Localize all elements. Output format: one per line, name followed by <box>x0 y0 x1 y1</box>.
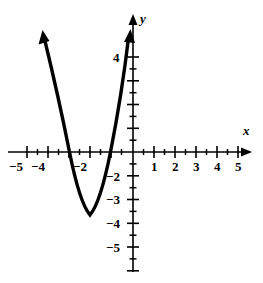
x-tick-label-4: 4 <box>214 160 221 173</box>
y-tick-label--2: −2 <box>106 170 120 183</box>
x-tick-label-5: 5 <box>235 160 242 173</box>
y-axis-label: y <box>140 12 146 25</box>
x-axis <box>8 148 252 157</box>
y-tick-label--5: −5 <box>106 241 120 254</box>
cartesian-plot <box>0 0 263 283</box>
x-tick-label-3: 3 <box>193 160 200 173</box>
x-tick-label-2: 2 <box>172 160 179 173</box>
curve-arrow-left <box>39 30 50 45</box>
x-axis-label: x <box>243 124 250 137</box>
parabola-curve <box>39 29 136 215</box>
y-axis <box>129 14 138 272</box>
y-tick-label--3: −3 <box>106 193 120 206</box>
x-tick-label--4: −4 <box>31 160 45 173</box>
x-tick-label--2: −2 <box>73 160 87 173</box>
y-tick-label-4: 4 <box>113 51 120 64</box>
graph-figure: −5 −4 −2 1 2 3 4 5 4 −2 −3 −4 −5 x y <box>0 0 263 283</box>
x-tick-label--5: −5 <box>9 160 23 173</box>
y-tick-label--4: −4 <box>106 217 120 230</box>
x-tick-label-1: 1 <box>151 160 158 173</box>
